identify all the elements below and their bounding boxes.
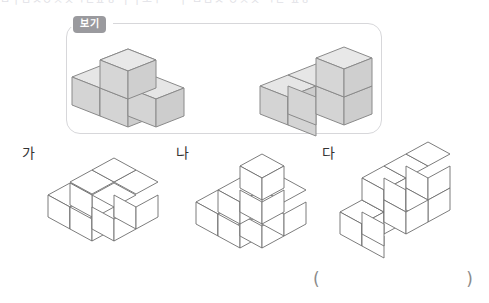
option-da-label: 다: [322, 146, 335, 160]
option-na-label: 나: [176, 146, 189, 160]
answer-close-paren: ): [466, 271, 473, 288]
option-ga-label: 가: [22, 146, 35, 160]
example-figure-2-svg: [230, 33, 410, 128]
answer-open-paren: (: [313, 271, 320, 288]
example-figure-2: [230, 33, 410, 128]
option-na-figure: [192, 152, 322, 247]
option-na-svg: [192, 152, 322, 247]
example-figure-1-svg: [42, 33, 222, 128]
cutoff-header-text: ㅁㅣㅂㅅㅇㅈㅊㅋㅌㅍㅎ ㅏㅓㅗㅜ ㅡㅣ ㅁㅂㅅ ㅇㅈㅊ ㅋㅌ ㅍㅎ: [0, 0, 489, 5]
option-ga-figure: [30, 160, 160, 240]
answer-blank[interactable]: ( ): [313, 268, 473, 290]
example-figure-1: [42, 33, 222, 128]
example-badge-label: 보기: [73, 16, 106, 33]
option-da-figure: [336, 152, 466, 247]
option-ga-svg: [30, 160, 160, 240]
option-da-svg: [336, 152, 466, 247]
